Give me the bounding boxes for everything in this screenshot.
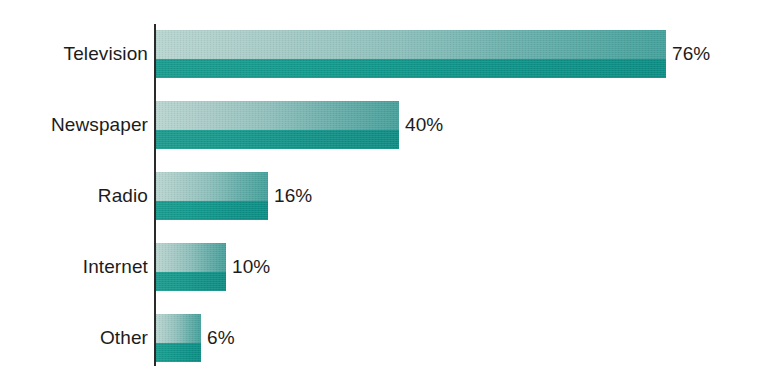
bar-lower-band bbox=[156, 272, 226, 291]
bar-fill[interactable] bbox=[156, 314, 201, 362]
bar-value-label: 40% bbox=[405, 101, 443, 149]
bar-track bbox=[156, 172, 268, 220]
bar-value-label: 16% bbox=[274, 172, 312, 220]
bar-track bbox=[156, 30, 666, 78]
bar-track bbox=[156, 314, 201, 362]
bar-upper-band bbox=[156, 243, 226, 272]
category-label: Other bbox=[100, 314, 148, 362]
category-label: Television bbox=[64, 30, 148, 78]
bar-track bbox=[156, 243, 226, 291]
bar-value-label: 6% bbox=[207, 314, 235, 362]
bar-upper-band bbox=[156, 172, 268, 201]
bar-row[interactable]: Radio 16% bbox=[0, 172, 760, 220]
bar-lower-band bbox=[156, 343, 201, 362]
plot-area: Television 76% Newspaper 40% bbox=[0, 0, 760, 388]
bar-fill[interactable] bbox=[156, 243, 226, 291]
bar-row[interactable]: Television 76% bbox=[0, 30, 760, 78]
bar-chart: Television 76% Newspaper 40% bbox=[0, 0, 760, 388]
bar-lower-band bbox=[156, 201, 268, 220]
bar-lower-band bbox=[156, 59, 666, 78]
bar-fill[interactable] bbox=[156, 30, 666, 78]
bar-upper-band bbox=[156, 101, 399, 130]
bar-row[interactable]: Newspaper 40% bbox=[0, 101, 760, 149]
bar-track bbox=[156, 101, 399, 149]
bar-upper-band bbox=[156, 30, 666, 59]
bar-value-label: 76% bbox=[672, 30, 710, 78]
category-label: Internet bbox=[83, 243, 148, 291]
bar-row[interactable]: Other 6% bbox=[0, 314, 760, 362]
category-label: Radio bbox=[98, 172, 148, 220]
bar-fill[interactable] bbox=[156, 172, 268, 220]
bar-fill[interactable] bbox=[156, 101, 399, 149]
bar-row[interactable]: Internet 10% bbox=[0, 243, 760, 291]
category-label: Newspaper bbox=[51, 101, 148, 149]
bar-lower-band bbox=[156, 130, 399, 149]
bar-upper-band bbox=[156, 314, 201, 343]
bar-value-label: 10% bbox=[232, 243, 270, 291]
